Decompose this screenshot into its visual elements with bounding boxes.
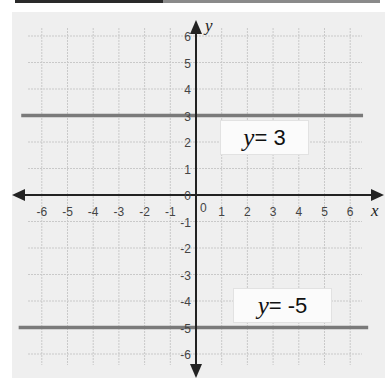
- x-tick-label: -4: [88, 205, 99, 219]
- equation-value: = 3: [254, 125, 285, 151]
- coordinate-plane: xy-6-5-4-3-2-11234566543210-1-2-3-4-5-60: [0, 0, 389, 392]
- x-tick-label: -5: [62, 205, 73, 219]
- equation-value: = -5: [269, 293, 308, 319]
- equation-label-y-3: y = 3: [220, 120, 309, 155]
- y-tick-label: -4: [180, 295, 191, 309]
- y-tick-label: 3: [184, 110, 191, 124]
- x-axis-label: x: [370, 201, 379, 220]
- x-tick-label: 5: [321, 205, 328, 219]
- y-tick-label: -6: [180, 348, 191, 362]
- x-tick-label: 6: [347, 205, 354, 219]
- equation-variable: y: [258, 292, 269, 320]
- equation-label-y-neg5: y = -5: [233, 288, 332, 323]
- y-tick-label: 4: [184, 83, 191, 97]
- x-tick-label: 2: [244, 205, 251, 219]
- y-axis-down-arrow-icon: [190, 364, 202, 378]
- y-tick-label: 6: [184, 30, 191, 44]
- y-tick-label: -1: [180, 216, 191, 230]
- y-tick-label: 2: [184, 136, 191, 150]
- x-tick-label: -2: [139, 205, 150, 219]
- x-tick-label: 1: [218, 205, 225, 219]
- y-axis-up-arrow-icon: [190, 20, 202, 34]
- x-tick-label: -3: [114, 205, 125, 219]
- y-tick-label: -5: [180, 322, 191, 336]
- x-axis-left-arrow-icon: [12, 189, 25, 201]
- y-tick-label: 0: [184, 189, 191, 203]
- x-tick-label: 3: [270, 205, 277, 219]
- equation-variable: y: [243, 124, 254, 152]
- x-tick-label: 4: [295, 205, 302, 219]
- x-tick-label: -6: [36, 205, 47, 219]
- y-axis-label: y: [203, 16, 213, 35]
- origin-label: 0: [200, 201, 207, 215]
- x-tick-label: -1: [165, 205, 176, 219]
- y-tick-label: -3: [180, 269, 191, 283]
- y-tick-label: 1: [184, 163, 191, 177]
- y-tick-label: -2: [180, 242, 191, 256]
- y-tick-label: 5: [184, 57, 191, 71]
- x-axis-right-arrow-icon: [371, 189, 384, 201]
